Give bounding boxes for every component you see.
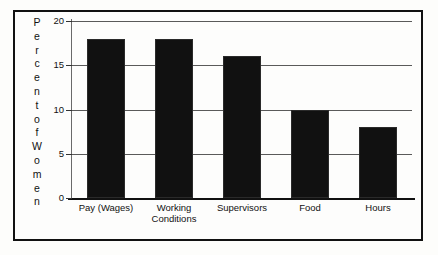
y-axis-title-char: t bbox=[36, 100, 39, 111]
y-tick-mark-20 bbox=[66, 21, 72, 22]
x-tick-label: WorkingConditions bbox=[140, 202, 208, 224]
y-axis-title-char: r bbox=[35, 45, 39, 56]
x-axis-line bbox=[68, 198, 415, 200]
x-tick-label: Hours bbox=[344, 202, 412, 213]
x-tick-label: Pay (Wages) bbox=[72, 202, 140, 213]
x-tick-label-line: Food bbox=[276, 202, 344, 213]
y-tick-mark-10 bbox=[66, 110, 72, 111]
y-tick-mark-0 bbox=[66, 198, 72, 199]
y-axis-title-char: f bbox=[36, 127, 39, 138]
bar-series bbox=[72, 21, 412, 198]
x-tick-label-line: Hours bbox=[344, 202, 412, 213]
bar bbox=[223, 56, 261, 198]
y-axis-ticks: 05101520 bbox=[40, 0, 64, 255]
y-tick-label-10: 10 bbox=[42, 105, 64, 115]
x-tick-label: Food bbox=[276, 202, 344, 213]
y-tick-label-20: 20 bbox=[42, 16, 64, 26]
y-tick-label-0: 0 bbox=[42, 193, 64, 203]
x-tick-label-line: Pay (Wages) bbox=[72, 202, 140, 213]
y-tick-label-5: 5 bbox=[42, 149, 64, 159]
x-tick-label-line: Conditions bbox=[140, 213, 208, 224]
bar bbox=[291, 110, 329, 199]
bar bbox=[359, 127, 397, 198]
bar bbox=[155, 39, 193, 198]
y-axis-title-char: c bbox=[34, 58, 39, 69]
x-tick-label-line: Working bbox=[140, 202, 208, 213]
x-tick-label: Supervisors bbox=[208, 202, 276, 213]
y-tick-mark-15 bbox=[66, 65, 72, 66]
x-axis-labels: Pay (Wages)WorkingConditionsSupervisorsF… bbox=[72, 202, 412, 238]
y-tick-label-15: 15 bbox=[42, 60, 64, 70]
y-tick-mark-5 bbox=[66, 154, 72, 155]
chart-figure: P e r c e n t o f W o m e n 05101520 Pay… bbox=[0, 0, 438, 255]
bar bbox=[87, 39, 125, 198]
x-tick-label-line: Supervisors bbox=[208, 202, 276, 213]
